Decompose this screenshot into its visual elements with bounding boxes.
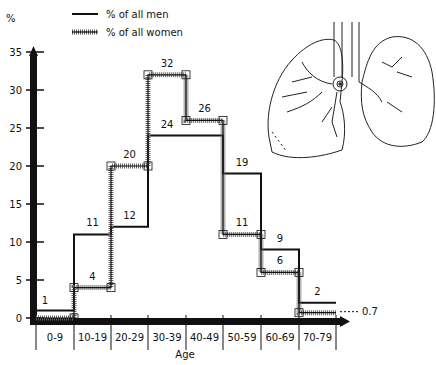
x-axis-title: Age [175,349,194,360]
y-tick-label: 10 [9,237,22,248]
lung-illustration-icon [268,22,434,158]
y-axis-unit-label: % [6,13,16,24]
x-tick-label: 70-79 [303,332,332,343]
men-series-line [36,136,336,318]
y-tick-label: 5 [16,275,22,286]
y-tick-label: 15 [9,199,22,210]
y-tick-label: 35 [9,47,22,58]
x-tick-label: 0-9 [47,332,63,343]
data-labels: 1111224199242032261160.7 [42,58,378,317]
women-value-label: 32 [161,58,174,69]
men-value-label: 24 [161,119,174,130]
legend-women-label: % of all women [106,27,183,38]
y-tick-label: 30 [9,85,22,96]
x-tick-label: 20-29 [115,332,144,343]
women-value-label: 4 [89,271,95,282]
women-value-label: 20 [123,149,136,160]
men-value-label: 1 [42,295,48,306]
x-tick-label: 60-69 [265,332,294,343]
y-tick-label: 25 [9,123,22,134]
men-value-label: 11 [86,217,99,228]
y-axis [30,54,37,325]
legend: % of all men% of all women [72,9,183,38]
women-series-line [36,71,336,322]
men-value-label: 19 [236,157,249,168]
step-chart: 05101520253035%0-910-1920-2930-3940-4950… [0,0,436,365]
x-tick-label: 10-19 [78,332,107,343]
y-axis-arrow-icon [29,46,38,56]
y-tick-label: 20 [9,161,22,172]
x-tick-label: 50-59 [227,332,256,343]
men-value-label: 12 [123,210,136,221]
y-tick-label: 0 [16,313,22,324]
men-value-label: 9 [277,233,283,244]
x-tick-label: 30-39 [152,332,181,343]
women-value-label: 26 [198,103,211,114]
legend-men-label: % of all men [106,9,169,20]
women-value-label: 0.7 [362,306,378,317]
men-value-label: 2 [314,286,320,297]
x-tick-label: 40-49 [190,332,219,343]
women-value-label: 6 [277,255,283,266]
x-axis-arrow-icon [340,316,350,327]
women-value-label: 11 [236,217,249,228]
